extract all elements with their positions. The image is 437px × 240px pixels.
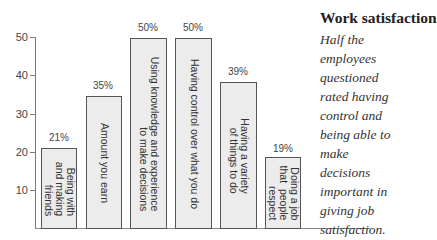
bar-value-label: 39% [218, 66, 258, 77]
bar-category-label: Being with and making friends [43, 161, 76, 215]
y-tick [30, 114, 35, 115]
bar-value-label: 19% [263, 143, 303, 154]
bar-category-label: Doing a job that people respect [267, 166, 300, 221]
y-axis [35, 37, 36, 228]
bar-control: Having control over what you do [175, 38, 212, 229]
chart-title: Work satisfaction [320, 9, 437, 27]
chart-subtitle: Half the employees questioned rated havi… [320, 30, 396, 239]
bar-respect: Doing a job that people respect [265, 157, 301, 229]
bar-earn: Amount you earn [86, 96, 122, 229]
bar-category-label: Amount you earn [99, 123, 110, 203]
bar-category-label: Having a variety of things to do [228, 118, 250, 193]
y-tick [30, 75, 35, 76]
y-tick-label: 30 [2, 108, 28, 120]
y-tick-label: 20 [2, 146, 28, 158]
bar-knowledge: Using knowledge and experience to make d… [130, 38, 167, 229]
bar-value-label: 50% [128, 22, 168, 33]
bar-value-label: 35% [83, 80, 123, 91]
y-tick-label: 50 [2, 31, 28, 43]
bar-variety: Having a variety of things to do [220, 82, 257, 229]
bar-value-label: 21% [39, 132, 79, 143]
y-tick [30, 152, 35, 153]
bar-category-label: Having control over what you do [188, 59, 199, 209]
bar-friends: Being with and making friends [41, 148, 77, 229]
y-tick [30, 37, 35, 38]
bar-category-label: Using knowledge and experience to make d… [138, 56, 160, 211]
y-tick [30, 190, 35, 191]
y-tick-label: 10 [2, 184, 28, 196]
y-tick-label: 40 [2, 69, 28, 81]
bar-value-label: 50% [173, 22, 213, 33]
